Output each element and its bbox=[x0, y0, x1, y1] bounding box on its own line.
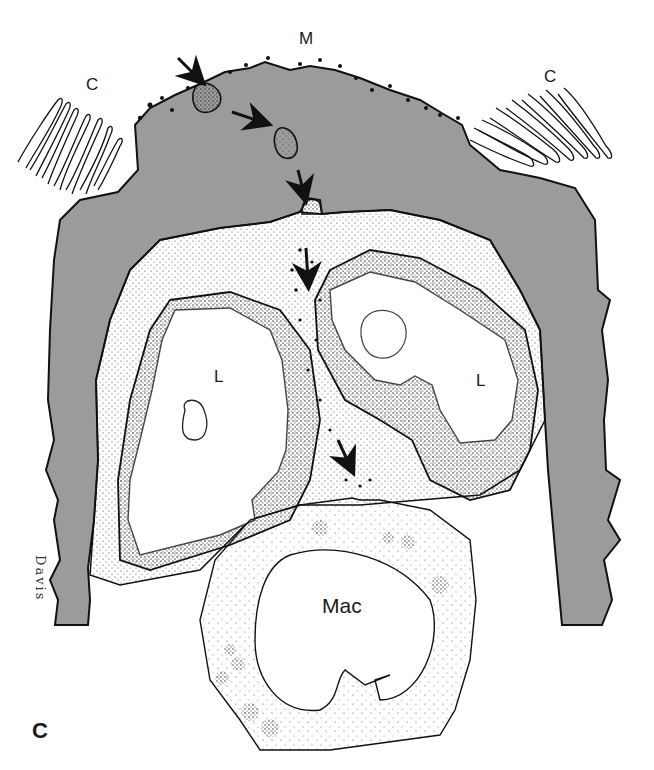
label-cilia-right: C bbox=[544, 68, 556, 85]
label-cilia-left: C bbox=[86, 76, 98, 93]
tissue-illustration bbox=[0, 0, 654, 770]
panel-label: C bbox=[32, 720, 48, 742]
cilia-right bbox=[470, 88, 612, 166]
arrow-icon bbox=[178, 58, 198, 78]
vesicle-fusing bbox=[302, 200, 322, 215]
cilia-left bbox=[18, 98, 122, 194]
artist-signature: Davis bbox=[33, 555, 48, 601]
label-m: M bbox=[299, 30, 313, 47]
label-lumen-left: L bbox=[214, 368, 223, 385]
arrow-icon bbox=[306, 248, 308, 280]
label-macrophage: Mac bbox=[322, 595, 362, 616]
nucleus-right bbox=[361, 310, 406, 358]
label-lumen-right: L bbox=[476, 372, 485, 389]
figure-panel: M C C L L Mac C Davis bbox=[0, 0, 654, 770]
